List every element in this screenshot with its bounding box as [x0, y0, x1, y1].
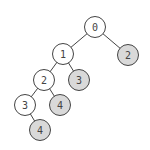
- tree-node: 4: [30, 120, 51, 141]
- tree-node: 0: [85, 17, 106, 38]
- node-label: 4: [37, 125, 43, 136]
- tree-node: 2: [118, 45, 139, 66]
- tree-node: 3: [15, 95, 36, 116]
- tree-node: 3: [69, 70, 90, 91]
- tree-node: 2: [34, 70, 55, 91]
- node-label: 0: [92, 22, 98, 33]
- node-label: 2: [41, 75, 47, 86]
- node-label: 3: [22, 100, 28, 111]
- node-label: 1: [60, 49, 66, 60]
- node-label: 2: [125, 50, 131, 61]
- tree-node: 1: [53, 44, 74, 65]
- node-label: 3: [76, 75, 82, 86]
- tree-node: 4: [50, 95, 71, 116]
- node-label: 4: [57, 100, 63, 111]
- tree-diagram: 01223344: [0, 0, 150, 150]
